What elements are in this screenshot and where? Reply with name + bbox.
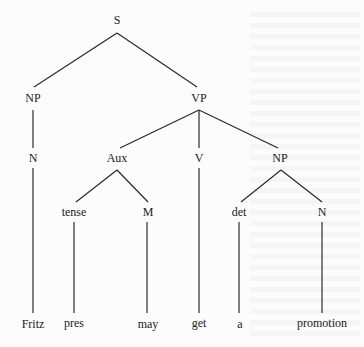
node-M: M <box>143 206 154 218</box>
edge-S-NP1 <box>34 33 117 87</box>
edge-S-VP <box>117 33 197 87</box>
edge-Aux-M <box>117 170 148 202</box>
edge-VP-Aux <box>120 110 199 148</box>
leaf-Fritz: Fritz <box>22 318 45 330</box>
node-N-object: N <box>318 206 327 218</box>
edge-VP-NP2 <box>199 110 278 148</box>
node-S: S <box>114 14 121 26</box>
edge-Aux-tense <box>76 170 117 202</box>
edge-NP2-N2 <box>281 170 322 202</box>
leaf-promotion: promotion <box>297 317 347 329</box>
node-NP-subject: NP <box>25 92 40 104</box>
leaf-get: get <box>192 317 207 329</box>
leaf-pres: pres <box>64 317 84 329</box>
node-Aux: Aux <box>107 152 128 164</box>
node-N-subject: N <box>29 152 38 164</box>
edge-NP2-det <box>241 170 281 202</box>
node-det: det <box>232 206 247 218</box>
node-VP: VP <box>191 92 206 104</box>
leaf-a: a <box>237 318 242 330</box>
leaf-may: may <box>138 318 159 330</box>
node-tense: tense <box>62 206 87 218</box>
node-V: V <box>195 152 204 164</box>
diagram-page: S NP VP N Aux V NP tense M det N Fritz p… <box>0 0 364 347</box>
tree-edges <box>0 0 364 347</box>
node-NP-object: NP <box>272 152 287 164</box>
